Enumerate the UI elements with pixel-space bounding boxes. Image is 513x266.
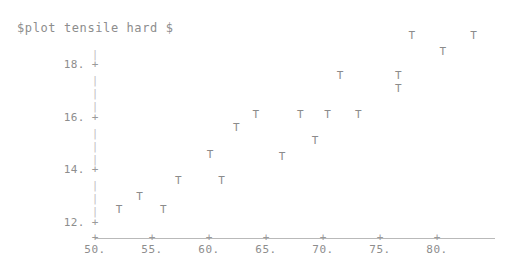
y-axis-tick: + (92, 217, 99, 228)
x-axis-tick: + (320, 232, 327, 243)
plot-canvas: $plot tensile hard $ +++++++ 50.55.60.65… (0, 0, 513, 266)
x-axis-tick: + (149, 232, 156, 243)
y-axis-tick: + (92, 111, 99, 122)
x-axis-tick: + (206, 232, 213, 243)
scatter-marker: T (136, 190, 143, 201)
scatter-marker: T (337, 69, 344, 80)
x-axis-tick: + (263, 232, 270, 243)
scatter-marker: T (218, 174, 225, 185)
y-axis-tick-label: 14. (55, 164, 85, 175)
x-axis-tick-label: 70. (312, 244, 333, 256)
scatter-marker: T (355, 109, 362, 120)
y-axis-tick: + (92, 59, 99, 70)
scatter-marker: T (470, 30, 477, 41)
x-axis-tick-label: 65. (255, 244, 276, 256)
scatter-marker: T (175, 174, 182, 185)
x-axis-tick-label: 60. (198, 244, 219, 256)
scatter-marker: T (395, 69, 402, 80)
y-axis-tick-label: 18. (55, 59, 85, 70)
y-axis-stem: | (92, 180, 99, 191)
scatter-marker: T (312, 135, 319, 146)
x-axis-tick: + (92, 232, 99, 243)
x-axis-tick: + (434, 232, 441, 243)
scatter-marker: T (252, 109, 259, 120)
x-axis-tick-label: 75. (369, 244, 390, 256)
scatter-marker: T (207, 148, 214, 159)
scatter-marker: T (409, 30, 416, 41)
scatter-marker: T (324, 109, 331, 120)
y-axis-stem: | (92, 193, 99, 204)
scatter-marker: T (297, 109, 304, 120)
x-axis-tick: + (377, 232, 384, 243)
scatter-marker: T (233, 122, 240, 133)
scatter-marker: T (439, 46, 446, 57)
y-axis-stem: | (92, 127, 99, 138)
y-axis-stem: | (92, 74, 99, 85)
scatter-marker: T (279, 151, 286, 162)
x-axis-tick-label: 80. (426, 244, 447, 256)
x-axis-tick-label: 55. (141, 244, 162, 256)
page-title: $plot tensile hard $ (17, 21, 174, 35)
scatter-marker: T (160, 203, 167, 214)
y-axis-tick: + (92, 164, 99, 175)
y-axis-tick-label: 12. (55, 217, 85, 228)
y-axis-stem: | (92, 140, 99, 151)
y-axis-tick-label: 16. (55, 111, 85, 122)
x-axis-tick-label: 50. (84, 244, 105, 256)
scatter-marker: T (395, 82, 402, 93)
y-axis-stem: | (92, 88, 99, 99)
scatter-marker: T (116, 203, 123, 214)
